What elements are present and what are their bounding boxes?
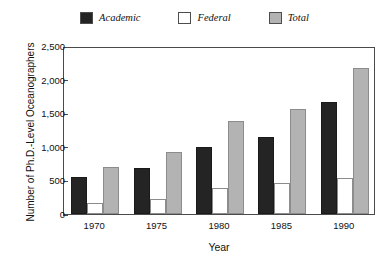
bar-academic-1980: [196, 147, 212, 214]
y-axis-title: Number of Ph.D.-Level Oceanographers: [25, 52, 36, 222]
x-tick-label-1980: 1980: [194, 220, 244, 231]
x-tick-label-1970: 1970: [69, 220, 119, 231]
plot-area: [63, 47, 375, 215]
y-tick-label-1000: 1,000: [41, 143, 65, 153]
legend-item-total: Total: [269, 12, 309, 24]
bar-group-1975: [134, 48, 182, 214]
bar-group-1985: [258, 48, 306, 214]
legend-swatch-academic: [80, 12, 93, 24]
x-tick-label-1975: 1975: [132, 220, 182, 231]
y-tick-label-2000: 2,000: [41, 76, 65, 86]
legend-item-academic: Academic: [80, 12, 140, 24]
bar-total-1970: [103, 167, 119, 214]
y-tick-label-1500: 1,500: [41, 109, 65, 119]
bar-federal-1980: [212, 188, 228, 214]
bar-group-1990: [321, 48, 369, 214]
bar-academic-1990: [321, 102, 337, 214]
bar-academic-1970: [71, 177, 87, 214]
bar-academic-1975: [134, 168, 150, 214]
bar-group-1980: [196, 48, 244, 214]
legend-swatch-federal: [178, 12, 191, 24]
bar-academic-1985: [258, 137, 274, 214]
legend-item-federal: Federal: [178, 12, 230, 24]
chart-figure: Academic Federal Total 05001,0001,5002,0…: [0, 0, 389, 264]
y-tick-label-2500: 2,500: [41, 42, 65, 52]
legend-swatch-total: [269, 12, 282, 24]
chart-legend: Academic Federal Total: [0, 12, 389, 24]
bar-federal-1990: [337, 178, 353, 214]
bar-group-1970: [71, 48, 119, 214]
bar-federal-1975: [150, 199, 166, 214]
bar-federal-1970: [87, 203, 103, 214]
bar-total-1975: [166, 152, 182, 214]
legend-label-federal: Federal: [197, 12, 230, 24]
legend-label-academic: Academic: [99, 12, 140, 24]
bar-total-1990: [353, 68, 369, 214]
bar-federal-1985: [274, 183, 290, 214]
bar-total-1985: [290, 109, 306, 214]
bar-total-1980: [228, 121, 244, 214]
legend-label-total: Total: [288, 12, 309, 24]
x-axis-title: Year: [63, 241, 375, 253]
bars-layer: [64, 48, 374, 214]
x-tick-label-1985: 1985: [256, 220, 306, 231]
x-tick-label-1990: 1990: [319, 220, 369, 231]
